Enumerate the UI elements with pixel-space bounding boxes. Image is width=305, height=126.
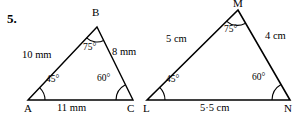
angle-label-L: 45° xyxy=(166,75,179,85)
angle-label-A: 45° xyxy=(46,75,59,85)
vertex-label-N: N xyxy=(284,103,292,114)
side-label-MN: 4 cm xyxy=(265,31,286,42)
side-label-LM: 5 cm xyxy=(166,34,187,45)
figure-svg-canvas xyxy=(0,0,305,126)
angle-label-B: 75° xyxy=(83,43,96,53)
side-label-AB: 10 mm xyxy=(22,50,51,61)
vertex-label-C: C xyxy=(127,103,134,114)
angle-arc-C xyxy=(116,85,125,100)
side-label-LN: 5·5 cm xyxy=(200,103,229,114)
vertex-label-M: M xyxy=(233,0,243,9)
side-label-BC: 8 mm xyxy=(112,47,136,58)
side-label-AC: 11 mm xyxy=(57,103,86,114)
vertex-label-A: A xyxy=(24,103,32,114)
triangle-ABC-outline xyxy=(28,27,133,100)
question-number: 5. xyxy=(7,11,17,27)
angle-label-N: 60° xyxy=(252,73,265,83)
geometry-figure-container: 5. A B C 10 mm 8 mm 11 mm 45° 75° 60° L … xyxy=(0,0,305,126)
angle-arc-N xyxy=(272,84,281,100)
angle-label-C: 60° xyxy=(97,74,110,84)
angle-arc-L xyxy=(160,87,165,100)
angle-label-M: 75° xyxy=(224,25,237,35)
angle-arc-A xyxy=(40,88,45,100)
vertex-label-L: L xyxy=(143,103,150,114)
triangle-LMN-outline xyxy=(147,10,290,100)
triangle-LMN-path xyxy=(147,10,290,100)
triangle-ABC-path xyxy=(28,27,133,100)
vertex-label-B: B xyxy=(92,7,99,18)
